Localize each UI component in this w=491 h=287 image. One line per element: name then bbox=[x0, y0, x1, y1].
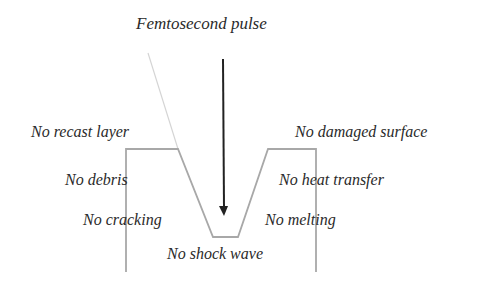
label-no-heat-transfer: No heat transfer bbox=[279, 172, 384, 188]
label-no-recast-layer: No recast layer bbox=[31, 124, 129, 140]
label-no-shock-wave: No shock wave bbox=[167, 246, 263, 262]
diagram-canvas bbox=[0, 0, 491, 287]
pulse-arrow-icon bbox=[219, 59, 228, 216]
label-no-debris: No debris bbox=[65, 172, 128, 188]
label-no-melting: No melting bbox=[265, 212, 336, 228]
label-no-damaged-surface: No damaged surface bbox=[295, 124, 427, 140]
beam-edge-line bbox=[148, 53, 178, 149]
title-femtosecond-pulse: Femtosecond pulse bbox=[136, 15, 267, 32]
label-no-cracking: No cracking bbox=[83, 212, 162, 228]
